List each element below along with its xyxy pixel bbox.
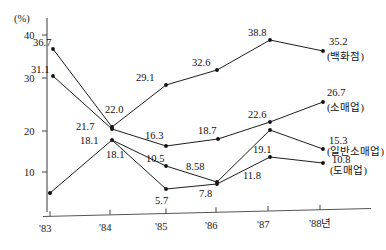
data-label-32-6: 32.6 bbox=[192, 57, 210, 68]
x-tick-label-86: '86 bbox=[205, 220, 217, 231]
x-axis-line bbox=[43, 209, 371, 217]
legend-label-somaeeop: (소매업) bbox=[327, 101, 364, 114]
data-label-18-1-lower: 18.1 bbox=[106, 149, 124, 160]
series-line-baekhwajeom bbox=[51, 38, 325, 129]
data-label-8-58: 8.58 bbox=[186, 161, 204, 172]
data-point bbox=[268, 120, 272, 124]
x-tick-label-84: '84 bbox=[99, 222, 112, 233]
data-point bbox=[321, 147, 325, 151]
x-tick-label-88: '88년 bbox=[309, 218, 331, 229]
legend-label-domaeeop: (도매업) bbox=[330, 164, 367, 177]
data-label-26-7: 26.7 bbox=[327, 87, 345, 98]
data-label-16-3: 16.3 bbox=[145, 130, 163, 141]
data-point bbox=[164, 83, 168, 87]
data-label-11-8: 11.8 bbox=[243, 170, 261, 181]
data-label-15-3: 15.3 bbox=[329, 135, 347, 146]
data-point bbox=[268, 128, 272, 132]
data-point bbox=[321, 49, 325, 53]
line-chart: (%) 40 30 20 10 '83 '84 '85 '86 '87 '88년 bbox=[0, 0, 386, 250]
y-tick-label-20: 20 bbox=[24, 126, 35, 137]
x-tick-label-85: '85 bbox=[155, 221, 167, 232]
data-point bbox=[164, 164, 168, 168]
axes-group bbox=[42, 18, 371, 217]
data-point bbox=[164, 144, 168, 148]
data-point bbox=[110, 127, 114, 131]
data-label-21-7: 21.7 bbox=[76, 121, 94, 132]
data-point bbox=[215, 182, 219, 186]
data-label-35-2: 35.2 bbox=[329, 36, 347, 47]
x-tick-label-87: '87 bbox=[257, 219, 269, 230]
series-path-baekhwajeom bbox=[53, 40, 323, 127]
data-label-18-7: 18.7 bbox=[198, 125, 216, 136]
chart-canvas: (%) 40 30 20 10 '83 '84 '85 '86 '87 '88년 bbox=[0, 0, 386, 250]
data-label-5-7: 5.7 bbox=[155, 195, 168, 206]
legend-label-baekhwajeom: (백화점) bbox=[327, 51, 364, 63]
data-label-group: 36.7 31.1 22.0 21.7 18.1 18.1 29.1 16.3 … bbox=[31, 27, 350, 206]
data-label-22-0: 22.0 bbox=[105, 104, 123, 115]
data-point bbox=[51, 47, 55, 51]
x-axis-tick-labels: '83 '84 '85 '86 '87 '88년 bbox=[39, 218, 331, 234]
data-label-10-5: 10.5 bbox=[146, 153, 164, 164]
data-label-29-1: 29.1 bbox=[136, 72, 154, 83]
x-tick-label-83: '83 bbox=[39, 223, 51, 234]
data-point bbox=[48, 191, 52, 195]
data-label-38-8: 38.8 bbox=[248, 27, 266, 38]
y-tick-label-10: 10 bbox=[24, 167, 35, 178]
data-point bbox=[215, 68, 219, 72]
data-label-18-1-left: 18.1 bbox=[80, 135, 98, 146]
data-point bbox=[164, 187, 168, 191]
data-point bbox=[268, 38, 272, 42]
data-label-31-1: 31.1 bbox=[31, 64, 49, 75]
y-axis-unit-label: (%) bbox=[14, 13, 30, 25]
data-label-7-8: 7.8 bbox=[199, 188, 212, 199]
data-point bbox=[51, 74, 55, 78]
y-axis-tick-labels: (%) 40 30 20 10 bbox=[14, 13, 35, 178]
data-label-19-1: 19.1 bbox=[253, 144, 271, 155]
legend-label-ilbansomaeeop: (일반소매업) bbox=[327, 145, 384, 158]
data-point bbox=[216, 137, 220, 141]
data-point bbox=[321, 161, 325, 165]
data-label-36-7: 36.7 bbox=[33, 37, 51, 48]
data-point bbox=[321, 100, 325, 104]
series-line-domaeeop bbox=[112, 140, 325, 191]
data-point bbox=[268, 155, 272, 159]
data-label-22-6: 22.6 bbox=[248, 109, 266, 120]
